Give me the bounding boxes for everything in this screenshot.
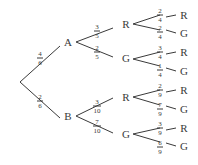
branch-ag-g [133,59,160,66]
numerator: 6 [158,139,162,147]
denominator: 9 [158,110,162,118]
node-ag-r: R [180,46,188,58]
branch-br-g-tail [166,106,176,109]
node-bg-r: R [180,122,188,134]
branch-bg-g [133,134,160,142]
fraction-ag-g: 1 4 [157,62,163,79]
fraction-br-r: 2 9 [157,82,163,99]
numerator: 1 [158,62,162,70]
fraction-ar-g: 2 4 [157,24,163,41]
denominator: 4 [158,53,162,61]
node-b: B [64,110,71,122]
fraction-bg-g: 6 9 [157,139,163,156]
denominator: 9 [158,148,162,156]
branch-br-r-tail [166,90,176,92]
fraction-ag-r: 3 4 [157,44,163,61]
node-a-g: G [122,52,130,64]
branch-bg-r [133,128,160,134]
node-ar-r: R [180,9,188,21]
fraction-b-r: 3 10 [93,98,101,115]
branch-bg-g-tail [166,143,176,146]
numerator: 2 [158,24,162,32]
denominator: 9 [158,129,162,137]
fraction-a-g: 2 5 [94,44,100,61]
branch-ar-r [133,15,160,24]
fraction-a-r: 3 5 [94,23,100,40]
node-br-r: R [180,84,188,96]
numerator: 2 [158,82,162,90]
branch-ag-r [133,52,160,59]
node-ar-g: G [180,27,188,39]
fraction-bg-r: 3 9 [157,120,163,137]
denominator: 4 [158,16,162,24]
numerator: 3 [95,98,99,106]
numerator: 2 [38,93,42,101]
denominator: 6 [38,59,42,67]
denominator: 5 [95,32,99,40]
numerator: 3 [95,23,99,31]
denominator: 4 [158,71,162,79]
denominator: 10 [94,127,102,135]
fraction-br-g: 7 9 [157,101,163,118]
fraction-ar-r: 2 4 [157,7,163,24]
numerator: 7 [95,118,99,126]
branch-ar-g-tail [166,30,176,33]
branch-br-g [133,97,160,105]
fraction-root-a: 4 6 [37,50,43,67]
branch-ar-r-tail [166,15,176,17]
denominator: 10 [94,107,102,115]
numerator: 7 [158,101,162,109]
branch-ag-r-tail [166,52,176,54]
node-br-g: G [180,103,188,115]
denominator: 9 [158,91,162,99]
probability-tree: 4 6 2 6 A B 3 5 2 5 R G 2 4 R 2 4 G [0,0,198,165]
branch-ar-g [133,24,160,30]
node-ag-g: G [180,65,188,77]
node-a: A [64,36,72,48]
denominator: 6 [38,102,42,110]
numerator: 2 [158,7,162,15]
node-b-g: G [122,128,130,140]
branch-bg-r-tail [166,128,176,130]
numerator: 2 [95,44,99,52]
denominator: 5 [95,53,99,61]
fraction-b-g: 7 10 [93,118,101,135]
numerator: 4 [38,50,42,58]
denominator: 4 [158,33,162,41]
numerator: 3 [158,120,162,128]
node-b-r: R [122,91,130,103]
fraction-root-b: 2 6 [37,93,43,110]
branch-br-r [133,90,160,97]
branch-ag-g-tail [166,68,176,71]
node-a-r: R [122,18,130,30]
numerator: 3 [158,44,162,52]
node-bg-g: G [180,140,188,152]
